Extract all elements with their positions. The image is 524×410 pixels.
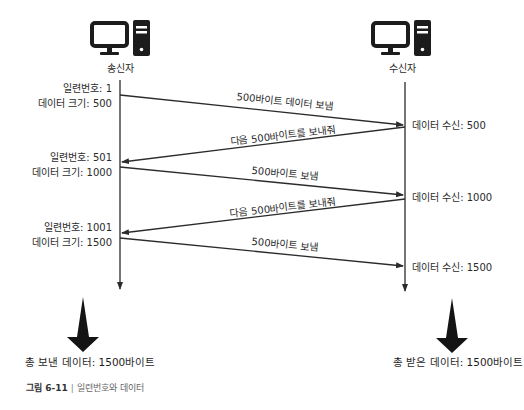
- caption-separator: |: [71, 383, 74, 393]
- figure-title: 일련번호와 데이터: [77, 383, 144, 393]
- sender-size-label: 데이터 크기: 1500: [10, 237, 112, 249]
- receiver-label: 수신자: [382, 63, 422, 75]
- receiver-computer-icon: [373, 20, 431, 56]
- sender-seq-label: 일련번호: 501: [10, 152, 112, 164]
- sender-total-arrow-icon: [67, 297, 99, 352]
- receiver-received-label: 데이터 수신: 1500: [412, 262, 492, 274]
- sender-seq-label: 일련번호: 1: [10, 83, 112, 95]
- sender-computer-icon: [92, 20, 150, 56]
- total-sent-label: 총 보낸 데이터: 1500바이트: [25, 356, 155, 369]
- receiver-received-label: 데이터 수신: 500: [412, 120, 486, 132]
- sender-label: 송신자: [100, 63, 140, 75]
- sender-size-label: 데이터 크기: 500: [10, 98, 112, 110]
- receiver-total-arrow-icon: [436, 298, 468, 353]
- figure-number: 그림 6-11: [26, 383, 68, 393]
- sender-seq-label: 일련번호: 1001: [10, 222, 112, 234]
- total-received-label: 총 받은 데이터: 1500바이트: [393, 356, 523, 369]
- sender-size-label: 데이터 크기: 1000: [10, 167, 112, 179]
- receiver-received-label: 데이터 수신: 1000: [412, 192, 492, 204]
- figure-caption: 그림 6-11|일련번호와 데이터: [26, 383, 144, 394]
